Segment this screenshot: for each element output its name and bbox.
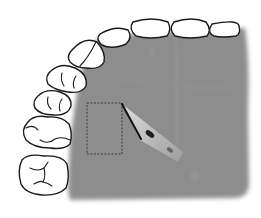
- tooth-6: [47, 65, 87, 92]
- tooth-2: [171, 19, 209, 38]
- tooth-9: [19, 155, 68, 195]
- tooth-1: [210, 22, 240, 37]
- tooth-8: [23, 116, 71, 148]
- tooth-4: [98, 28, 130, 47]
- tooth-5: [68, 40, 104, 68]
- dental-diagram: [0, 0, 261, 218]
- tooth-7: [34, 91, 71, 115]
- tooth-3: [131, 19, 170, 38]
